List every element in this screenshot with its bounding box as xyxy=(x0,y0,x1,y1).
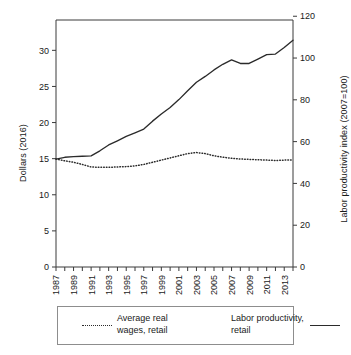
y-axis-left-tick-label: 5 xyxy=(44,226,49,236)
x-axis-tick-label: 2005 xyxy=(209,275,219,295)
y-axis-right-tick-label: 60 xyxy=(300,137,310,147)
x-axis-tick-label: 1993 xyxy=(104,275,114,295)
y-axis-left-tick-label: 10 xyxy=(39,190,49,200)
x-axis-tick-label: 1991 xyxy=(87,275,97,295)
y-axis-right-tick-label: 0 xyxy=(300,262,305,272)
chart-legend: Average real wages, retail Labor product… xyxy=(57,306,294,345)
legend-label-average-real-wages: Average real wages, retail xyxy=(117,313,205,336)
y-axis-left-tick-label: 0 xyxy=(44,262,49,272)
x-axis-tick-label: 2013 xyxy=(280,275,290,295)
y-axis-right-tick-label: 80 xyxy=(300,95,310,105)
legend-label-line1: Average real xyxy=(117,313,168,323)
legend-label-labor-productivity: Labor productivity, retail xyxy=(231,313,319,336)
chart-figure: Dollars (2016) Labor productivity index … xyxy=(0,0,351,355)
y-axis-right-tick-label: 20 xyxy=(300,220,310,230)
x-axis-tick-label: 1995 xyxy=(122,275,132,295)
x-axis-tick-label: 2003 xyxy=(192,275,202,295)
x-axis-tick-label: 1999 xyxy=(157,275,167,295)
x-axis-tick-label: 2001 xyxy=(174,275,184,295)
y-axis-left-tick-label: 25 xyxy=(39,82,49,92)
y-axis-left-tick-label: 30 xyxy=(39,46,49,56)
series-line-labor-productivity xyxy=(56,40,293,159)
x-axis-tick-label: 1989 xyxy=(69,275,79,295)
legend-label-line2: wages, retail xyxy=(117,325,168,335)
y-axis-left-tick-label: 20 xyxy=(39,118,49,128)
y-axis-right-tick-label: 40 xyxy=(300,179,310,189)
x-axis-tick-label: 2011 xyxy=(262,275,272,294)
y-axis-left-tick-label: 15 xyxy=(39,154,49,164)
y-axis-right-tick-label: 120 xyxy=(300,11,315,21)
x-axis-tick-label: 2009 xyxy=(245,275,255,295)
x-axis-tick-label: 2007 xyxy=(227,275,237,295)
series-line-average-real-wages xyxy=(56,153,293,168)
legend-label-line2: retail xyxy=(231,325,251,335)
y-axis-right-tick-label: 100 xyxy=(300,53,315,63)
legend-swatch-dotted-line xyxy=(82,325,112,326)
x-axis-tick-label: 1987 xyxy=(51,275,61,295)
x-axis-tick-label: 1997 xyxy=(139,275,149,295)
chart-plot-area: 0510152025300204060801001201987198919911… xyxy=(0,0,351,355)
legend-label-line1: Labor productivity, xyxy=(231,313,304,323)
